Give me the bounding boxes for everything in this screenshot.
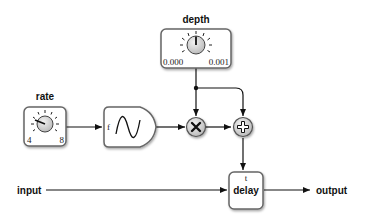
delay-block[interactable]: t delay: [229, 172, 263, 209]
signal-flow-diagram: depth 0.000 0.001 rate: [0, 0, 372, 220]
sine-oscillator-block[interactable]: f: [104, 107, 156, 147]
connections: [46, 68, 310, 190]
oscillator-box: [104, 107, 156, 147]
delay-label: delay: [233, 185, 259, 196]
oscillator-input-label: f: [107, 122, 110, 132]
depth-max: 0.001: [209, 57, 229, 67]
multiply-node[interactable]: [187, 118, 206, 137]
input-label: input: [17, 185, 42, 196]
rate-min: 4: [27, 135, 32, 145]
add-node[interactable]: [234, 118, 253, 137]
depth-min: 0.000: [163, 57, 184, 67]
depth-label: depth: [182, 14, 209, 25]
output-label: output: [316, 185, 348, 196]
depth-knob-block[interactable]: depth 0.000 0.001: [161, 14, 231, 68]
rate-max: 8: [60, 135, 65, 145]
junction-dot: [194, 86, 198, 90]
depth-to-add-wire: [196, 88, 243, 116]
rate-knob-block[interactable]: rate 4 8: [24, 91, 66, 146]
rate-label: rate: [36, 91, 55, 102]
